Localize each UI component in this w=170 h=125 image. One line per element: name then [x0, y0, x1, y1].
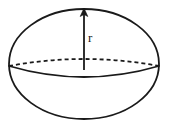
sphere-drawing: [0, 0, 170, 125]
sphere-radius-diagram: r: [0, 0, 170, 125]
radius-label: r: [88, 31, 92, 44]
